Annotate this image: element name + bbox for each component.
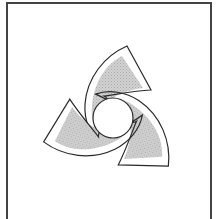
center-circle [93,98,133,138]
blade-diagram [0,0,220,219]
